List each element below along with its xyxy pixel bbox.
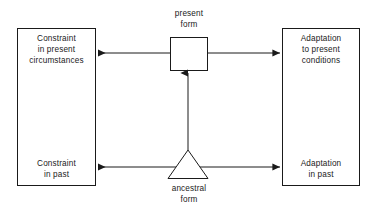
diagram-shapes-layer [0, 0, 377, 213]
label-present-form: present form [148, 8, 230, 30]
label-constraint-present: Constraint in present circumstances [17, 33, 96, 66]
label-constraint-past: Constraint in past [17, 158, 96, 180]
square-present-form [171, 38, 208, 71]
diagram-canvas: Constraint in present circumstances Cons… [0, 0, 377, 213]
label-adaptation-present: Adaptation to present conditions [282, 33, 360, 66]
label-adaptation-past: Adaptation in past [282, 158, 360, 180]
triangle-ancestral-form [168, 150, 208, 179]
label-ancestral-form: ancestral form [148, 183, 230, 205]
